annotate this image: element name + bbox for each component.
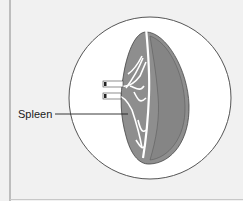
artery-lumen — [104, 82, 107, 86]
spleen-label: Spleen — [18, 108, 52, 120]
spleen-diagram — [0, 0, 243, 201]
vein-lumen — [104, 94, 107, 98]
